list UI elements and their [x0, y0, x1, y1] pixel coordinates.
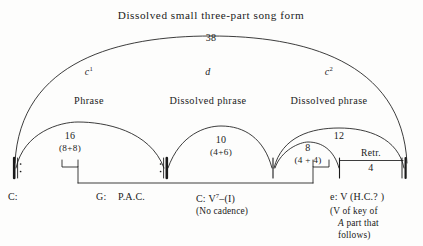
- final-note-part-rest: part that: [346, 218, 378, 228]
- retransition-label: Retr.: [361, 148, 381, 158]
- bracket-left-group: [62, 160, 78, 167]
- second-chord-roman: V: [208, 193, 215, 204]
- measure-count-16: 16: [65, 131, 76, 142]
- key-label-second: C: V7–(I): [196, 192, 235, 205]
- final-note-line-2: A part that: [338, 218, 379, 228]
- final-note-line-3: follows): [338, 230, 370, 240]
- cadence-type-pac: P.A.C.: [118, 192, 145, 203]
- measure-count-10: 10: [216, 135, 227, 146]
- section-label-d-letter: d: [205, 66, 210, 77]
- measure-breakdown-8: (4 + 4): [294, 156, 321, 166]
- second-chord-resolution: –(I): [219, 193, 235, 204]
- arc-span-16: [16, 122, 164, 168]
- key-label-final: e: V (H.C.? ): [330, 192, 384, 203]
- key-label-first-cadence: G:: [96, 192, 106, 203]
- measure-breakdown-10: (4+6): [210, 148, 232, 158]
- section-label-c1: c1: [85, 65, 93, 78]
- diagram-title: Dissolved small three-part song form: [118, 9, 304, 21]
- measure-count-8: 8: [305, 143, 310, 154]
- phrase-type-d: Dissolved phrase: [169, 95, 246, 106]
- total-measure-count: 38: [206, 33, 217, 44]
- measure-count-4: 4: [368, 163, 373, 174]
- key-label-opening: C:: [8, 192, 18, 203]
- section-label-c1-sup: 1: [90, 65, 94, 72]
- final-note-part-letter: A: [338, 218, 344, 228]
- opening-repeat-dot-lower: [20, 171, 22, 173]
- opening-repeat-dot-upper: [20, 163, 22, 165]
- second-key-name: C:: [196, 193, 206, 204]
- section-label-c2: c2: [325, 65, 333, 78]
- section-label-c2-sup: 2: [330, 65, 334, 72]
- measure-breakdown-16: (8+8): [59, 144, 81, 154]
- closing-repeat-dot-upper: [160, 163, 162, 165]
- measure-count-12: 12: [334, 131, 345, 142]
- final-note-line-1: (V of key of: [330, 206, 378, 216]
- section-label-d: d: [205, 65, 210, 78]
- phrase-type-c2: Dissolved phrase: [290, 95, 367, 106]
- musical-form-diagram: Dissolved small three-part song form 38 …: [0, 0, 423, 246]
- phrase-type-c1: Phrase: [74, 95, 104, 106]
- closing-repeat-dot-lower: [160, 171, 162, 173]
- no-cadence-note: (No cadence): [196, 206, 248, 216]
